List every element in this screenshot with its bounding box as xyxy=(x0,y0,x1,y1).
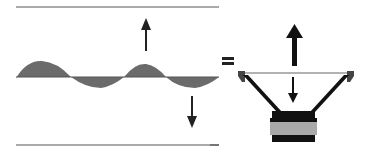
speaker-icon xyxy=(238,24,354,142)
up-arrow-icon xyxy=(141,18,151,51)
speaker-bottom-plate xyxy=(272,135,315,142)
diagram-canvas xyxy=(0,0,366,150)
speaker-down-arrow-icon xyxy=(288,77,298,103)
wave-icon xyxy=(16,61,219,88)
speaker-magnet xyxy=(270,122,317,135)
equals-sign xyxy=(222,57,234,65)
speaker-up-arrow-icon xyxy=(286,24,303,66)
down-arrow-icon xyxy=(187,96,197,128)
